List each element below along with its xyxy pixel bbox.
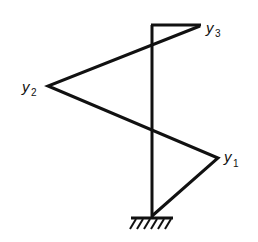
deflected-shape <box>48 26 218 216</box>
svg-text:y: y <box>223 148 233 165</box>
label-y1: y 1 <box>223 148 239 169</box>
label-y3: y 3 <box>205 19 221 39</box>
mode-shape-diagram: y 3 y 2 y 1 <box>0 0 258 242</box>
svg-text:1: 1 <box>233 158 239 169</box>
label-y2: y 2 <box>21 78 37 98</box>
svg-text:y: y <box>205 19 215 36</box>
fixed-support-icon <box>130 218 173 229</box>
svg-text:3: 3 <box>215 28 221 39</box>
svg-text:y: y <box>21 78 31 95</box>
svg-text:2: 2 <box>31 87 37 98</box>
